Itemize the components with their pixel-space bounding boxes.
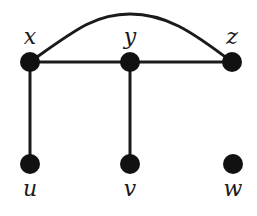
label-z: z	[225, 24, 238, 49]
node-x	[20, 52, 40, 72]
node-v	[120, 154, 140, 174]
label-v: v	[124, 176, 137, 201]
node-z	[222, 52, 242, 72]
label-u: u	[23, 176, 37, 201]
label-x: x	[24, 24, 37, 49]
label-y: y	[123, 24, 137, 49]
graph-diagram: x y z u v w	[0, 0, 257, 216]
node-w	[223, 154, 243, 174]
label-w: w	[224, 176, 243, 201]
node-y	[120, 52, 140, 72]
labels: x y z u v w	[23, 24, 243, 201]
node-u	[20, 154, 40, 174]
